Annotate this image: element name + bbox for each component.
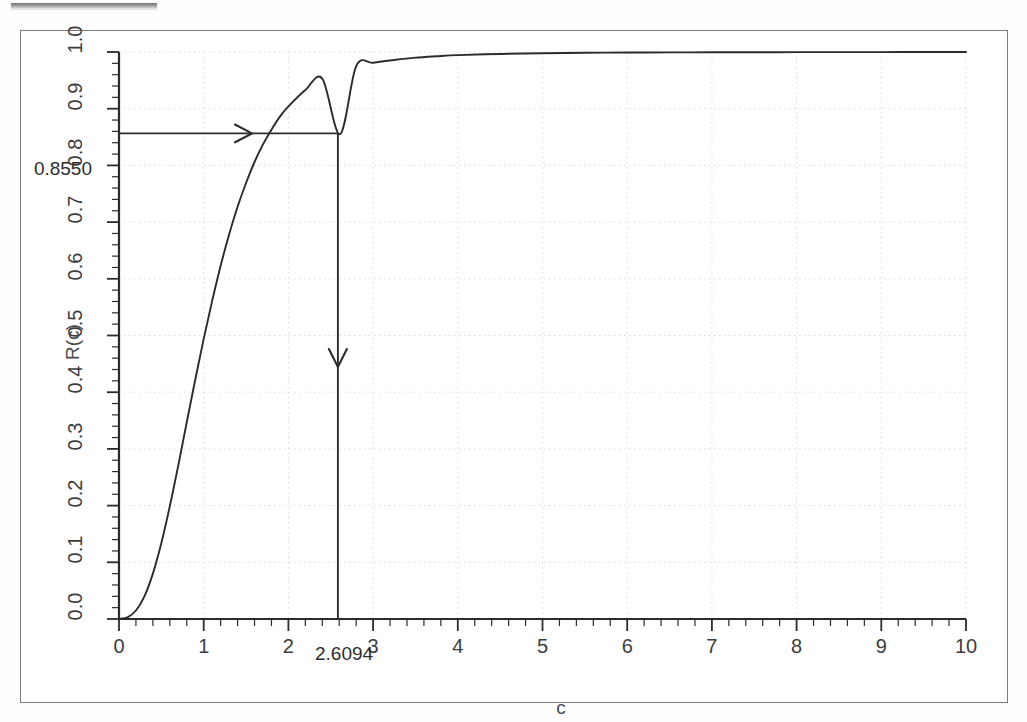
scan-artifact-bar-shadow	[11, 8, 157, 10]
y-tick-label-09: 0.9	[64, 72, 87, 120]
x-tick-label-1: 1	[184, 635, 224, 658]
y-tick-label-00: 0.0	[64, 583, 87, 631]
x-tick-label-4: 4	[438, 635, 478, 658]
x-tick-label-8: 8	[777, 635, 817, 658]
plot-canvas	[21, 31, 1007, 702]
y-tick-label-07: 0.7	[64, 186, 87, 234]
x-axis-major-ticks	[119, 619, 966, 631]
annotation-x-value-label: 2.6094	[315, 643, 373, 665]
y-tick-label-03: 0.3	[64, 412, 87, 460]
y-tick-label-10: 1.0	[64, 16, 87, 64]
x-tick-label-5: 5	[523, 635, 563, 658]
x-tick-label-7: 7	[692, 635, 732, 658]
y-axis-major-ticks	[107, 52, 119, 619]
x-tick-label-0: 0	[99, 635, 139, 658]
y-tick-label-06: 0.6	[64, 242, 87, 290]
annotation-y-value-label: 0.8550	[34, 158, 92, 180]
x-tick-label-9: 9	[861, 635, 901, 658]
y-axis-title: R(c)	[62, 312, 84, 372]
y-tick-label-01: 0.1	[64, 526, 87, 574]
figure-frame: 1.0 0.9 0.8 0.7 0.6 0.5 0.4 0.3 0.2 0.1 …	[20, 30, 1008, 703]
x-axis-title: c	[531, 697, 591, 719]
y-tick-label-02: 0.2	[64, 469, 87, 517]
x-tick-label-10: 10	[946, 635, 986, 658]
x-tick-label-2: 2	[268, 635, 308, 658]
chart-page: 1.0 0.9 0.8 0.7 0.6 0.5 0.4 0.3 0.2 0.1 …	[0, 0, 1027, 722]
x-tick-label-6: 6	[607, 635, 647, 658]
